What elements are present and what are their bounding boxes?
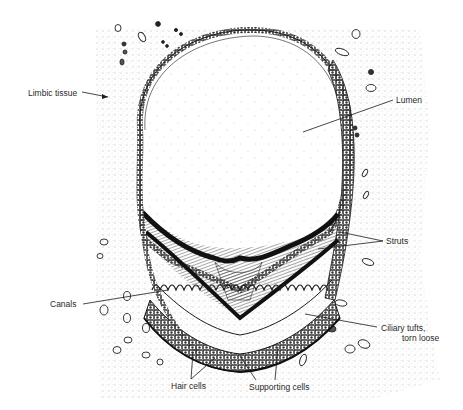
anatomical-diagram: [0, 0, 463, 410]
label-ciliary-tufts-line2: torn loose: [402, 333, 439, 343]
label-canals: Canals: [50, 299, 76, 309]
label-supporting-cells: Supporting cells: [249, 382, 309, 392]
label-hair-cells: Hair cells: [171, 381, 206, 391]
label-lumen: Lumen: [396, 95, 422, 105]
label-ciliary-tufts-line1: Ciliary tufts,: [381, 323, 425, 333]
label-struts: Struts: [386, 236, 408, 246]
label-limbic-tissue: Limbic tissue: [28, 88, 77, 98]
